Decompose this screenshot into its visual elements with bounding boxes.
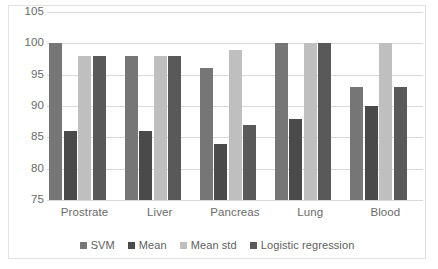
legend-swatch-icon xyxy=(180,242,187,249)
y-tick-label: 105 xyxy=(10,6,44,18)
legend-swatch-icon xyxy=(128,242,135,249)
bar-chart: 1051009590858075 ProstrateLiverPancreasL… xyxy=(0,0,438,269)
x-tick-label-pancreas: Pancreas xyxy=(197,207,272,219)
bar-blood-mean-std xyxy=(379,43,392,200)
bar-lung-mean-std xyxy=(304,43,317,200)
y-tick-label: 95 xyxy=(10,69,44,81)
y-tick-label: 75 xyxy=(10,194,44,206)
plot-area xyxy=(47,12,423,200)
bar-blood-svm xyxy=(350,87,363,200)
y-axis-tick-labels: 1051009590858075 xyxy=(8,0,44,269)
bar-lung-mean xyxy=(289,119,302,200)
bar-prostrate-mean-std xyxy=(78,56,91,200)
bar-liver-mean-std xyxy=(154,56,167,200)
bar-prostrate-logistic-regression xyxy=(93,56,106,200)
y-tick-label: 85 xyxy=(10,131,44,143)
x-axis-category-labels: ProstrateLiverPancreasLungBlood xyxy=(47,204,423,222)
bar-pancreas-mean-std xyxy=(229,50,242,200)
bar-pancreas-mean xyxy=(214,144,227,200)
bar-blood-logistic-regression xyxy=(394,87,407,200)
legend-label: SVM xyxy=(91,240,115,251)
bar-blood-mean xyxy=(365,106,378,200)
legend-item-mean[interactable]: Mean xyxy=(128,240,167,251)
y-tick-label: 80 xyxy=(10,163,44,175)
bar-liver-mean xyxy=(139,131,152,200)
legend-item-logistic-regression[interactable]: Logistic regression xyxy=(250,240,355,251)
bar-lung-logistic-regression xyxy=(318,43,331,200)
legend-label: Logistic regression xyxy=(261,240,355,251)
legend-item-mean-std[interactable]: Mean std xyxy=(180,240,237,251)
y-tick-label: 90 xyxy=(10,100,44,112)
legend-swatch-icon xyxy=(80,242,87,249)
legend-item-svm[interactable]: SVM xyxy=(80,240,115,251)
x-tick-label-prostrate: Prostrate xyxy=(47,207,122,219)
x-tick-label-blood: Blood xyxy=(348,207,423,219)
gridline-75 xyxy=(47,200,423,201)
bar-liver-logistic-regression xyxy=(168,56,181,200)
bar-pancreas-logistic-regression xyxy=(243,125,256,200)
x-tick-label-liver: Liver xyxy=(122,207,197,219)
legend-label: Mean xyxy=(139,240,167,251)
bars-layer xyxy=(47,12,423,200)
x-tick-label-lung: Lung xyxy=(273,207,348,219)
y-tick-label: 100 xyxy=(10,37,44,49)
bar-pancreas-svm xyxy=(200,68,213,200)
legend-swatch-icon xyxy=(250,242,257,249)
bar-liver-svm xyxy=(125,56,138,200)
bar-lung-svm xyxy=(275,43,288,200)
bar-prostrate-mean xyxy=(64,131,77,200)
chart-legend: SVMMeanMean stdLogistic regression xyxy=(8,237,426,253)
bar-prostrate-svm xyxy=(49,43,62,200)
legend-label: Mean std xyxy=(191,240,237,251)
